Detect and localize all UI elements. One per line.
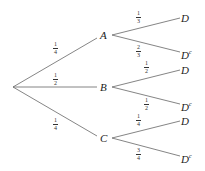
- denominator: 4: [137, 121, 140, 127]
- node-A-Dc: Dc: [181, 47, 192, 61]
- denominator: 4: [137, 155, 140, 161]
- prob-root-A: 1 4: [53, 41, 58, 55]
- node-A: A: [100, 30, 107, 41]
- denominator: 4: [54, 125, 57, 131]
- numerator: 1: [54, 41, 57, 47]
- prob-C-D: 1 4: [136, 113, 141, 127]
- edge-A-D: [112, 18, 180, 35]
- node-B: B: [100, 82, 107, 93]
- node-B-D: D: [181, 65, 189, 76]
- node-C-D: D: [181, 116, 189, 127]
- node-B-Dc: Dc: [181, 99, 192, 113]
- prob-A-Dc: 2 3: [136, 44, 141, 58]
- numerator: 2: [137, 44, 140, 50]
- denominator: 3: [137, 18, 140, 24]
- node-C-Dc: Dc: [181, 151, 192, 165]
- prob-B-Dc: 1 2: [144, 97, 149, 111]
- numerator: 1: [145, 60, 148, 66]
- prob-root-B: 1 2: [53, 72, 58, 86]
- numerator: 3: [137, 147, 140, 153]
- numerator: 1: [145, 97, 148, 103]
- prob-C-Dc: 3 4: [136, 147, 141, 161]
- denominator: 2: [145, 68, 148, 74]
- node-C: C: [100, 133, 107, 144]
- node-A-D: D: [181, 13, 189, 24]
- edge-A-Dc: [112, 35, 180, 52]
- prob-B-D: 1 2: [144, 60, 149, 74]
- numerator: 1: [54, 117, 57, 123]
- prob-A-D: 1 3: [136, 10, 141, 24]
- denominator: 2: [145, 105, 148, 111]
- numerator: 1: [137, 10, 140, 16]
- edge-C-Dc: [112, 138, 180, 156]
- denominator: 4: [54, 49, 57, 55]
- numerator: 1: [54, 72, 57, 78]
- denominator: 3: [137, 52, 140, 58]
- denominator: 2: [54, 80, 57, 86]
- numerator: 1: [137, 113, 140, 119]
- prob-root-C: 1 4: [53, 117, 58, 131]
- edge-C-D: [112, 121, 180, 138]
